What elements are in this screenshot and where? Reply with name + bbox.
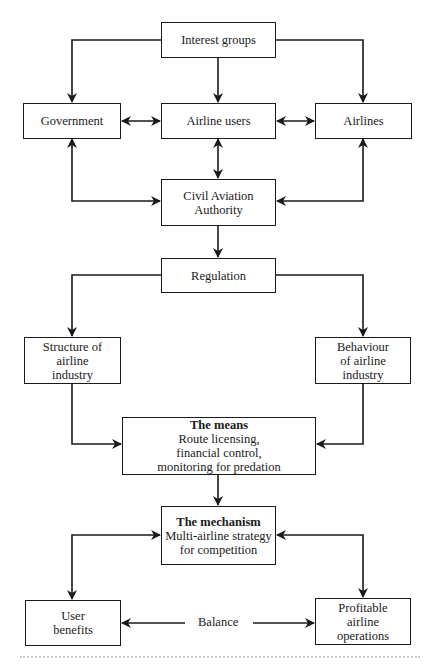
node-regulation: Regulation (161, 258, 276, 293)
node-title: The mechanism (176, 515, 260, 529)
node-text: Behaviour (337, 340, 389, 354)
node-text: industry (52, 368, 93, 382)
node-text: Profitable (338, 601, 387, 615)
arrow-airlines-caa (277, 139, 363, 201)
arrow-government-caa (72, 139, 160, 201)
node-text: Airline users (186, 114, 250, 128)
node-title: The means (190, 418, 248, 432)
arrow-mechanism-userbenefits (72, 535, 160, 599)
node-government: Government (23, 103, 121, 139)
node-airline-users: Airline users (161, 103, 276, 139)
node-text: airline (57, 354, 89, 368)
node-text: benefits (53, 623, 93, 637)
node-civil-aviation-authority: Civil Aviation Authority (161, 179, 276, 226)
node-user-benefits: User benefits (25, 600, 121, 646)
node-text: industry (343, 368, 384, 382)
arrow-mechanism-profitable (277, 535, 363, 597)
arrow-behaviour-means (317, 384, 363, 444)
arrow-regulation-behaviour (276, 275, 363, 336)
node-interest-groups: Interest groups (161, 22, 276, 58)
node-text: Civil Aviation (183, 189, 253, 203)
node-structure: Structure of airline industry (24, 337, 121, 384)
node-text: Government (41, 114, 103, 128)
node-behaviour: Behaviour of airline industry (315, 337, 411, 384)
arrow-interest-to-government (72, 40, 161, 102)
node-text: Authority (194, 203, 243, 217)
arrow-interest-to-airlines (276, 40, 363, 102)
figure-caption-cutoff (20, 656, 420, 661)
balance-label: Balance (194, 615, 242, 630)
node-text: User (61, 609, 85, 623)
node-the-mechanism: The mechanism Multi-airline strategy for… (161, 506, 276, 565)
node-text: Regulation (191, 269, 246, 283)
node-profitable-operations: Profitable airline operations (315, 598, 411, 645)
node-text: operations (337, 629, 389, 643)
arrow-regulation-structure (72, 275, 161, 336)
connector-layer (0, 0, 434, 665)
node-airlines: Airlines (315, 103, 412, 139)
node-text: Multi-airline strategy (165, 529, 272, 543)
node-text: airline (347, 615, 379, 629)
node-text: financial control, (176, 446, 261, 460)
node-text: Structure of (43, 340, 102, 354)
node-text: for competition (180, 543, 257, 557)
node-text: monitoring for predation (157, 460, 281, 474)
arrow-structure-means (72, 384, 121, 444)
node-text: Route licensing, (178, 432, 259, 446)
node-the-means: The means Route licensing, financial con… (122, 417, 316, 475)
node-text: of airline (340, 354, 385, 368)
node-text: Airlines (343, 114, 383, 128)
node-text: Interest groups (181, 33, 256, 47)
